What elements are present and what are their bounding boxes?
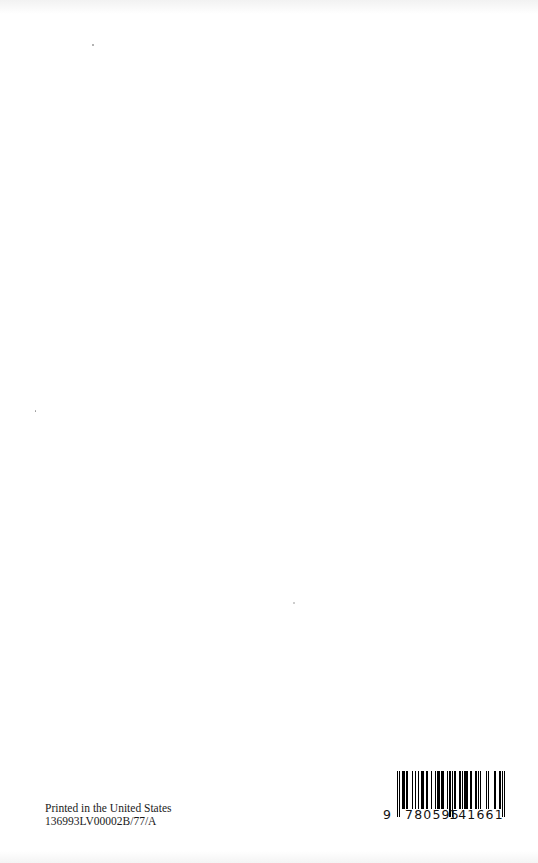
barcode-bar [504,771,505,817]
paper-speck [92,44,94,46]
paper-speck [35,410,36,412]
imprint-country: Printed in the United States [45,802,171,815]
barcode-right-digits: 141661 [449,807,504,822]
barcode-lead-digit: 9 [383,807,391,822]
page-top-edge [0,0,538,14]
page-bottom-edge [0,851,538,863]
isbn-barcode: 9 780595 141661 [383,769,518,829]
paper-speck [293,602,295,604]
printer-imprint: Printed in the United States 136993LV000… [45,802,171,828]
imprint-code: 136993LV00002B/77/A [45,815,171,828]
